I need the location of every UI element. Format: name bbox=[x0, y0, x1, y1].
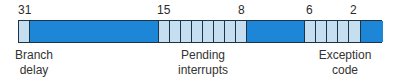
register-cell-exception-code bbox=[305, 21, 316, 42]
label-branch-delay: Branch delay bbox=[8, 48, 60, 78]
register-cell-pending-interrupt bbox=[236, 21, 247, 42]
label-line: interrupts bbox=[172, 63, 234, 78]
register-cell-pending-interrupt bbox=[170, 21, 181, 42]
bit-number-6: 6 bbox=[306, 4, 313, 17]
register-cell-reserved bbox=[361, 21, 383, 42]
bit-number-8: 8 bbox=[238, 4, 245, 17]
label-line: Exception bbox=[314, 48, 376, 63]
label-line: code bbox=[314, 63, 376, 78]
register-cell-pending-interrupt bbox=[159, 21, 170, 42]
label-line: Branch bbox=[8, 48, 60, 63]
register-cell-exception-code bbox=[327, 21, 338, 42]
bit-number-2: 2 bbox=[350, 4, 357, 17]
register-cell-reserved bbox=[247, 21, 305, 42]
register-cell-exception-code bbox=[338, 21, 349, 42]
register-cell-exception-code bbox=[316, 21, 327, 42]
register-cell-pending-interrupt bbox=[181, 21, 192, 42]
register-cell-branch-delay bbox=[19, 21, 30, 42]
label-pending-interrupts: Pending interrupts bbox=[172, 48, 234, 78]
register-bar bbox=[18, 20, 382, 43]
register-cell-pending-interrupt bbox=[203, 21, 214, 42]
bit-number-31: 31 bbox=[18, 4, 31, 17]
register-cell-pending-interrupt bbox=[192, 21, 203, 42]
register-cell-pending-interrupt bbox=[225, 21, 236, 42]
label-line: Pending bbox=[172, 48, 234, 63]
register-cell-exception-code bbox=[349, 21, 361, 42]
label-line: delay bbox=[8, 63, 60, 78]
label-exception-code: Exception code bbox=[314, 48, 376, 78]
bit-number-15: 15 bbox=[157, 4, 170, 17]
register-cell-pending-interrupt bbox=[214, 21, 225, 42]
register-cell-reserved bbox=[30, 21, 159, 42]
